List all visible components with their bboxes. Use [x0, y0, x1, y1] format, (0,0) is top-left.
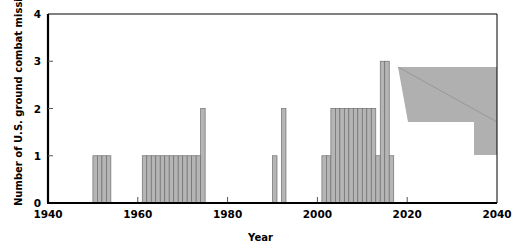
bar — [178, 156, 182, 203]
y-tick-label: 4 — [34, 8, 41, 20]
bar — [93, 156, 97, 203]
chart-figure: Number of U.S. ground combat missions Ye… — [0, 0, 521, 252]
bar — [281, 109, 285, 204]
projection-region-shape — [398, 67, 497, 155]
bar — [102, 156, 106, 203]
bar — [151, 156, 155, 203]
bar — [362, 109, 366, 204]
bar — [183, 156, 187, 203]
bar — [106, 156, 110, 203]
bar — [353, 109, 357, 204]
projection-region — [398, 67, 497, 155]
bar — [380, 61, 384, 203]
bar — [344, 109, 348, 204]
bar — [156, 156, 160, 203]
bar — [322, 156, 326, 203]
bar — [187, 156, 191, 203]
bar — [371, 109, 375, 204]
bar — [326, 156, 330, 203]
y-tick-label: 3 — [34, 55, 41, 67]
bar — [358, 109, 362, 204]
plot-area: 01234 194019601980200020202040 — [0, 0, 521, 252]
bar — [160, 156, 164, 203]
bar — [192, 156, 196, 203]
x-tick-label: 1960 — [123, 208, 152, 220]
bar — [335, 109, 339, 204]
bar — [273, 156, 277, 203]
bar — [147, 156, 151, 203]
y-axis-ticks: 01234 — [34, 8, 53, 209]
y-tick-label: 1 — [34, 150, 41, 162]
x-tick-label: 2000 — [303, 208, 332, 220]
x-tick-label: 1980 — [213, 208, 242, 220]
bar — [196, 156, 200, 203]
bar — [201, 109, 205, 204]
x-tick-label: 1940 — [33, 208, 62, 220]
bar — [367, 109, 371, 204]
x-tick-label: 2040 — [482, 208, 511, 220]
bar — [340, 109, 344, 204]
bar — [165, 156, 169, 203]
bars-group — [93, 61, 394, 203]
bar — [385, 61, 389, 203]
y-tick-label: 2 — [34, 103, 41, 115]
bar — [331, 109, 335, 204]
bar — [389, 156, 393, 203]
bar — [376, 156, 380, 203]
bar — [97, 156, 101, 203]
bar — [349, 109, 353, 204]
bar — [142, 156, 146, 203]
bar — [169, 156, 173, 203]
x-tick-label: 2020 — [393, 208, 422, 220]
bar — [174, 156, 178, 203]
